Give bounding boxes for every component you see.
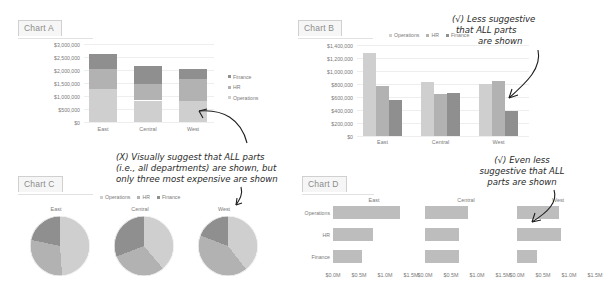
chart-d-row-label-finance: Finance (298, 254, 330, 260)
chart-a-bar-east-operations[interactable] (89, 89, 117, 122)
chart-b-legend-label: Operations (394, 32, 419, 38)
chart-b-ytick-0: $1,400,000 (301, 43, 353, 49)
chart-d-xtick-west-3: $1.5M (581, 272, 604, 278)
chart-a-bar-west-hr[interactable] (179, 79, 207, 101)
finance-swatch-icon (228, 75, 231, 78)
chart-d-xtick-west-2: $1.0M (555, 272, 583, 278)
chart-b-ytick-2: $1,000,000 (301, 69, 353, 75)
chart-b-ytick-7: $0 (301, 134, 353, 140)
chart-b-ytick-5: $400,000 (301, 108, 353, 114)
chart-d-xtick-central-0: $0.0M (411, 272, 439, 278)
chart-b-bar-east-operations[interactable] (363, 53, 376, 136)
chart-a-legend: Finance HR Operations (228, 73, 258, 105)
chart-a-legend-item-finance[interactable]: Finance (228, 74, 251, 80)
chart-a-ytick-0: $3,000,000 (30, 42, 80, 48)
chart-a-ytick-1: $2,500,000 (30, 55, 80, 61)
chart-b-bar-east-finance[interactable] (389, 100, 402, 136)
chart-c-legend-item-operations[interactable]: Operations (100, 194, 130, 200)
chart-b-ytick-4: $600,000 (301, 95, 353, 101)
chart-d-bar-east-hr[interactable] (333, 228, 373, 241)
chart-a-bar-east-finance[interactable] (89, 54, 117, 69)
annotation-d-line1: (√) Even less (452, 155, 592, 167)
chart-c-legend-label: HR (142, 194, 150, 200)
hr-swatch-icon (228, 86, 231, 89)
chart-a-tab[interactable]: Chart A (18, 20, 62, 36)
chart-a-legend-label: Operations (233, 95, 258, 101)
chart-b-bar-central-finance[interactable] (447, 93, 460, 136)
chart-a-ytick-4: $1,000,000 (30, 94, 80, 100)
chart-c-legend-label: Operations (105, 194, 130, 200)
chart-d-xtick-central-1: $0.5M (437, 272, 465, 278)
chart-a-xtick-east: East (89, 126, 117, 132)
chart-b-gridline (357, 136, 529, 137)
chart-c-legend-item-hr[interactable]: HR (137, 194, 150, 200)
chart-d-tab[interactable]: Chart D (302, 176, 347, 192)
chart-c-pie-east[interactable] (30, 216, 90, 276)
chart-b-ytick-6: $200,000 (301, 121, 353, 127)
chart-b-ytick-1: $1,200,000 (301, 56, 353, 62)
chart-b-legend-item-hr[interactable]: HR (426, 32, 439, 38)
chart-c-pie-central[interactable] (114, 216, 174, 276)
chart-a-bar-central-finance[interactable] (134, 66, 162, 83)
chart-d-bar-central-operations[interactable] (425, 206, 468, 219)
chart-d-bar-west-finance[interactable] (517, 250, 537, 263)
chart-a-bar-east-hr[interactable] (89, 69, 117, 89)
chart-b-bar-central-operations[interactable] (421, 82, 434, 136)
chart-d-xtick-east-1: $0.5M (345, 272, 373, 278)
chart-c-tab-rule (18, 194, 93, 195)
annotation-b-arrow (495, 48, 555, 110)
chart-a-tab-rule (18, 38, 93, 39)
chart-b-tab[interactable]: Chart B (298, 20, 342, 36)
chart-d-xtick-east-2: $1.0M (371, 272, 399, 278)
chart-d-xtick-central-2: $1.0M (463, 272, 491, 278)
chart-d-bar-east-operations[interactable] (333, 206, 400, 219)
finance-swatch-icon (446, 34, 449, 37)
chart-c-pie-west[interactable] (198, 216, 258, 276)
chart-a-ytick-2: $2,000,000 (30, 68, 80, 74)
chart-d-row-label-operations: Operations (298, 210, 330, 216)
chart-a-gridline (84, 44, 214, 45)
chart-d-xtick-west-1: $0.5M (529, 272, 557, 278)
chart-b-bar-east-hr[interactable] (376, 86, 389, 136)
chart-a-legend-item-hr[interactable]: HR (228, 84, 241, 90)
chart-c-pie-label-east: East (28, 206, 84, 212)
chart-b-tab-rule (298, 38, 373, 39)
chart-c-legend-item-finance[interactable]: Finance (157, 194, 180, 200)
operations-swatch-icon (389, 34, 392, 37)
chart-a-ytick-6: $0 (30, 120, 80, 126)
chart-d-row-label-hr: HR (298, 232, 330, 238)
chart-a-bar-central-hr[interactable] (134, 84, 162, 101)
chart-d-panel-label-central: Central (425, 197, 507, 203)
chart-a-bar-west-finance[interactable] (179, 69, 207, 79)
annotation-a-arrow (195, 105, 265, 150)
chart-d-bar-central-finance[interactable] (425, 250, 459, 263)
hr-swatch-icon (426, 34, 429, 37)
chart-d-xtick-west-0: $0.0M (503, 272, 531, 278)
chart-a-ytick-5: $500,000 (30, 107, 80, 113)
annotation-b-line2: that ALL parts (456, 25, 516, 37)
chart-a-legend-label: HR (233, 84, 241, 90)
chart-b-bar-west-operations[interactable] (479, 84, 492, 136)
chart-b-legend-item-operations[interactable]: Operations (389, 32, 419, 38)
chart-c-legend: Operations HR Finance (100, 194, 180, 204)
chart-d-tab-rule (302, 194, 374, 195)
chart-b-bar-west-finance[interactable] (505, 111, 518, 136)
operations-swatch-icon (100, 196, 103, 199)
chart-a-legend-item-operations[interactable]: Operations (228, 95, 258, 101)
chart-c-pie-label-central: Central (112, 206, 168, 212)
annotation-a-line1: (X) Visually suggest that ALL parts (116, 152, 265, 164)
chart-a-ytick-3: $1,500,000 (30, 81, 80, 87)
chart-a-bar-central-operations[interactable] (134, 101, 162, 123)
chart-b-xtick-east: East (363, 139, 402, 145)
finance-swatch-icon (157, 196, 160, 199)
annotation-d-arrow (520, 188, 570, 230)
annotation-b-line3: are shown (478, 36, 522, 48)
operations-swatch-icon (228, 96, 231, 99)
chart-d-bar-central-hr[interactable] (425, 228, 459, 241)
annotation-d-line3: parts are shown (452, 177, 592, 189)
chart-d-bar-east-finance[interactable] (333, 250, 362, 263)
chart-c-legend-label: Finance (162, 194, 180, 200)
annotation-d-line2: suggestive that ALL (452, 166, 592, 178)
chart-b-bar-central-hr[interactable] (434, 94, 447, 136)
chart-c-tab[interactable]: Chart C (18, 176, 63, 192)
